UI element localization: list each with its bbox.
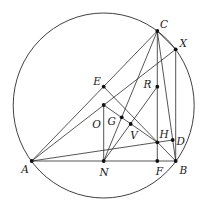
point-label-e: E (92, 75, 101, 87)
point-f (155, 159, 159, 163)
point-x (174, 47, 178, 51)
point-label-f: F (155, 165, 164, 177)
point-c (155, 29, 159, 33)
point-n (102, 159, 106, 163)
point-label-r: R (143, 78, 152, 90)
point-label-g: G (108, 115, 116, 127)
point-v (129, 122, 133, 126)
point-label-o: O (92, 118, 101, 130)
point-r (155, 85, 159, 89)
point-d (171, 138, 175, 142)
point-o (102, 103, 106, 107)
point-label-d: D (175, 135, 185, 147)
geometry-figure: ABCDEFGHNORVX (0, 0, 202, 206)
point-e (102, 85, 106, 89)
point-h (155, 140, 159, 144)
point-label-a: A (20, 163, 29, 175)
point-label-n: N (98, 166, 109, 178)
point-label-h: H (158, 128, 169, 140)
point-label-b: B (178, 164, 187, 176)
point-label-x: X (179, 37, 188, 49)
point-g (120, 115, 124, 119)
point-label-c: C (160, 18, 168, 30)
point-a (30, 159, 34, 163)
point-b (174, 159, 178, 163)
